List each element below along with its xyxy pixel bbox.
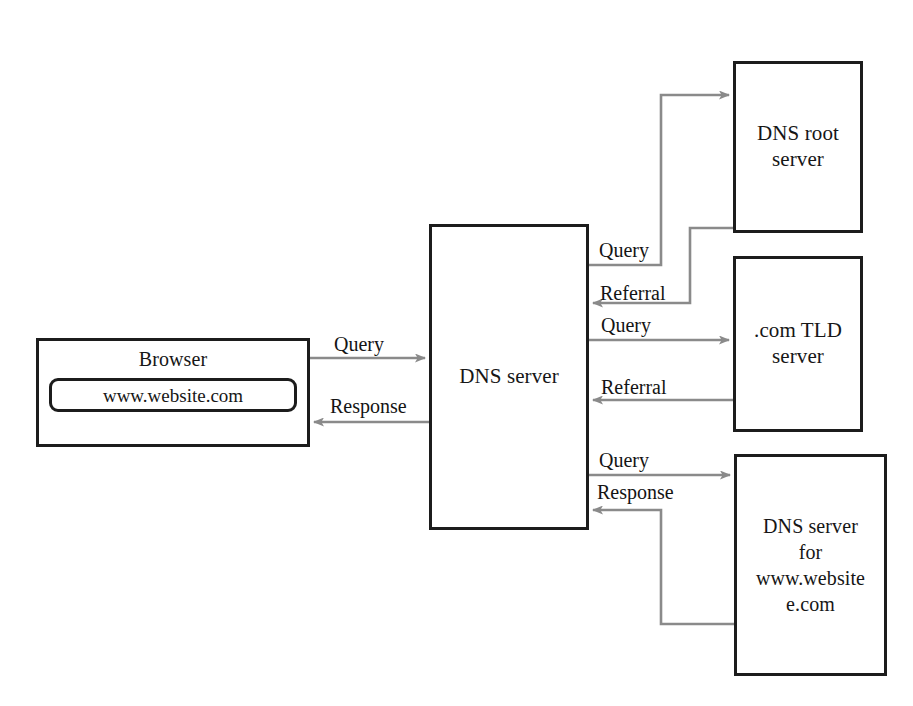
edge-label-auth-query: Query — [599, 450, 649, 470]
edge-label-tld-referral: Referral — [601, 377, 667, 397]
node-dns-root-server-label: DNS root server — [751, 121, 845, 172]
node-dns-server-label: DNS server — [453, 364, 565, 390]
browser-url-text: www.website.com — [103, 386, 243, 405]
edge-label-auth-response: Response — [597, 482, 674, 502]
node-dns-server[interactable]: DNS server — [429, 224, 589, 530]
edge-label-browser-query: Query — [334, 334, 384, 354]
node-com-tld-server[interactable]: .com TLD server — [733, 256, 863, 432]
edge-label-browser-response: Response — [330, 396, 407, 416]
node-browser-label: Browser — [49, 347, 297, 371]
node-authoritative-dns-server[interactable]: DNS server for www.website e.com — [734, 454, 887, 676]
browser-address-bar[interactable]: www.website.com — [49, 378, 297, 412]
node-dns-root-server[interactable]: DNS root server — [733, 61, 863, 233]
node-authoritative-dns-server-label: DNS server for www.website e.com — [750, 513, 871, 617]
edge-label-tld-query: Query — [601, 315, 651, 335]
node-browser[interactable]: Browser www.website.com — [36, 338, 310, 447]
dns-resolution-diagram: Browser www.website.com DNS server DNS r… — [0, 0, 913, 706]
edge-label-root-query: Query — [599, 240, 649, 260]
edge-auth-response-line — [593, 510, 734, 624]
node-com-tld-server-label: .com TLD server — [748, 318, 848, 369]
edge-label-root-referral: Referral — [600, 283, 666, 303]
